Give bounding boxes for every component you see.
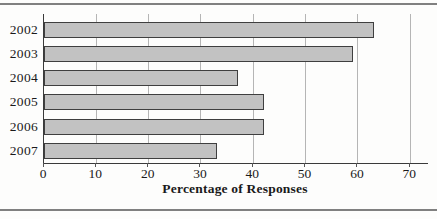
x-tick-label-20: 20: [141, 166, 155, 182]
y-axis-label-2007: 2007: [0, 143, 38, 159]
y-axis-label-2006: 2006: [0, 119, 38, 135]
bar-2006: [44, 119, 264, 135]
y-axis-label-2005: 2005: [0, 94, 38, 110]
top-rule: [0, 3, 437, 5]
y-axis-label-2002: 2002: [0, 22, 38, 38]
x-tick-label-60: 60: [350, 166, 364, 182]
y-axis-label-2004: 2004: [0, 70, 38, 86]
x-tick-label-40: 40: [246, 166, 260, 182]
bar-2004: [44, 70, 238, 86]
bar-2005: [44, 94, 264, 110]
bar-2003: [44, 46, 353, 62]
x-tick-label-30: 30: [193, 166, 207, 182]
x-tick-label-50: 50: [298, 166, 312, 182]
x-axis-title: Percentage of Responses: [43, 181, 427, 197]
x-tick-label-10: 10: [89, 166, 103, 182]
bar-2002: [44, 22, 374, 38]
bar-chart-figure: Percentage of Responses 2002200320042005…: [0, 0, 437, 219]
bar-2007: [44, 143, 217, 159]
x-tick-label-0: 0: [40, 166, 47, 182]
y-axis-label-2003: 2003: [0, 46, 38, 62]
bottom-rule: [0, 209, 437, 211]
plot-area: [43, 14, 428, 164]
x-tick-label-70: 70: [402, 166, 416, 182]
gridline-x-70: [410, 14, 411, 163]
